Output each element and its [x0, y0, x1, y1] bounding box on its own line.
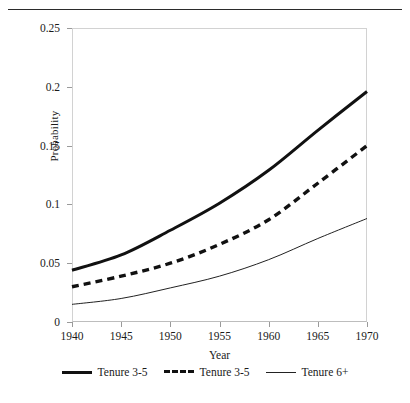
x-tick-label: 1965 [290, 330, 346, 342]
series-line-2 [72, 146, 367, 287]
legend-item: Tenure 6+ [266, 366, 349, 378]
x-tick-label: 1950 [142, 330, 198, 342]
x-tick-label: 1955 [192, 330, 248, 342]
plot-lines [72, 28, 367, 322]
x-tick-label: 1940 [44, 330, 100, 342]
x-tick-label: 1945 [93, 330, 149, 342]
legend-item: Tenure 3-5 [164, 366, 250, 378]
x-tick-mark [367, 322, 368, 327]
legend-label: Tenure 3-5 [200, 366, 250, 378]
legend-swatch-icon [164, 369, 194, 375]
x-tick-mark [269, 322, 270, 327]
y-tick-label: 0.25 [14, 22, 60, 34]
y-axis-title: Probability [44, 76, 60, 196]
y-tick-mark [67, 87, 72, 88]
y-tick-mark [67, 204, 72, 205]
header-rule [8, 9, 402, 10]
x-tick-label: 1970 [339, 330, 395, 342]
y-axis-title-text: Probability [48, 110, 60, 161]
x-axis-title: Year [72, 349, 367, 361]
y-tick-mark [67, 263, 72, 264]
series-line-1 [72, 92, 367, 271]
x-tick-mark [72, 322, 73, 327]
legend-swatch-icon [266, 369, 296, 375]
legend-item: Tenure 3-5 [62, 366, 148, 378]
y-tick-mark [67, 28, 72, 29]
legend-label: Tenure 6+ [302, 366, 349, 378]
chart-figure: 00.050.10.150.20.25 19401945195019551960… [0, 0, 410, 403]
chart-legend: Tenure 3-5Tenure 3-5Tenure 6+ [0, 366, 410, 378]
x-tick-mark [318, 322, 319, 327]
y-tick-label: 0 [14, 316, 60, 328]
legend-label: Tenure 3-5 [98, 366, 148, 378]
y-tick-mark [67, 146, 72, 147]
y-tick-label: 0.05 [14, 257, 60, 269]
x-tick-mark [170, 322, 171, 327]
x-tick-mark [121, 322, 122, 327]
x-tick-label: 1960 [241, 330, 297, 342]
y-tick-label: 0.1 [14, 198, 60, 210]
series-line-3 [72, 219, 367, 305]
x-tick-mark [220, 322, 221, 327]
legend-swatch-icon [62, 369, 92, 375]
